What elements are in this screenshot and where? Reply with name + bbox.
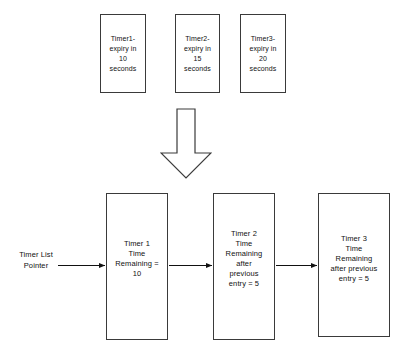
timer3-entry-box: Timer 3 Time Remaining after previous en… bbox=[318, 193, 390, 337]
diagram-canvas: Timer1- expiry in 10 seconds Timer2- exp… bbox=[0, 0, 401, 352]
timer1-entry-box: Timer 1 Time Remaining = 10 bbox=[106, 193, 168, 340]
timer3-expiry-box: Timer3- expiry in 20 seconds bbox=[240, 14, 286, 93]
timer1-entry-text: Timer 1 Time Remaining = 10 bbox=[107, 239, 167, 279]
timer2-entry-text: Timer 2 Time Remaining after previous en… bbox=[214, 229, 274, 289]
timer2-expiry-text: Timer2- expiry in 15 seconds bbox=[184, 34, 211, 74]
timer2-expiry-box: Timer2- expiry in 15 seconds bbox=[175, 14, 220, 93]
timer1-expiry-box: Timer1- expiry in 10 seconds bbox=[100, 14, 146, 93]
timer-list-pointer-label: Timer List Pointer bbox=[6, 249, 66, 271]
timer1-expiry-text: Timer1- expiry in 10 seconds bbox=[110, 34, 137, 74]
timer3-entry-text: Timer 3 Time Remaining after previous en… bbox=[319, 234, 389, 284]
down-block-arrow-icon bbox=[160, 108, 212, 180]
timer2-entry-box: Timer 2 Time Remaining after previous en… bbox=[213, 193, 275, 340]
timer3-expiry-text: Timer3- expiry in 20 seconds bbox=[250, 34, 277, 74]
